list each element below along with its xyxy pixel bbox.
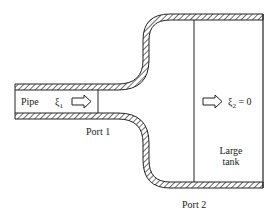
xi1-subscript: 1 — [59, 102, 63, 110]
port1-label: Port 1 — [86, 126, 110, 137]
xi1-label: ξ1 — [55, 96, 63, 112]
upper-wall — [15, 14, 263, 90]
xi2-value: = 0 — [236, 96, 252, 107]
tank-label: Large tank — [218, 145, 244, 167]
port2-label: Port 2 — [182, 199, 206, 210]
xi2-label: ξ2 = 0 — [228, 96, 252, 112]
flow-arrow-1-icon — [72, 95, 91, 108]
tank-label-line2: tank — [218, 156, 244, 167]
flow-arrow-2-icon — [203, 95, 222, 108]
pipe-label: Pipe — [21, 96, 39, 107]
tank-label-line1: Large — [218, 145, 244, 156]
